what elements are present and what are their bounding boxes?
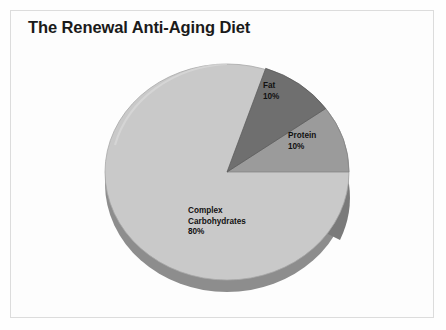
- pie-label-fat-name: Fat: [263, 81, 279, 92]
- pie-label-fat: Fat 10%: [263, 81, 279, 102]
- pie-label-complex-carbohydrates: Complex Carbohydrates 80%: [188, 206, 246, 238]
- slide-canvas: The Renewal Anti-Aging Diet: [0, 0, 446, 330]
- pie-label-carbohydrates-name-line1: Complex: [188, 206, 246, 217]
- pie-label-carbohydrates-name-line2: Carbohydrates: [188, 217, 246, 228]
- pie-label-protein: Protein 10%: [288, 131, 316, 152]
- pie-label-carbohydrates-value: 80%: [188, 227, 246, 238]
- pie-label-fat-value: 10%: [263, 92, 279, 103]
- pie-label-protein-value: 10%: [288, 142, 316, 153]
- pie-label-protein-name: Protein: [288, 131, 316, 142]
- pie-chart: Fat 10% Protein 10% Complex Carbohydrate…: [0, 0, 446, 330]
- pie-chart-svg: [0, 0, 446, 330]
